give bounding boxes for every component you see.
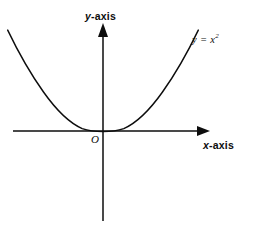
curve-equation-exponent: 2	[215, 32, 219, 40]
y-axis-label: y-axis	[85, 11, 116, 22]
curve-equation-label: y = x2	[192, 33, 219, 45]
curve-equation-lhs: y = x	[192, 34, 215, 45]
parabola-figure: y-axis x-axis y = x2 O	[0, 0, 259, 228]
y-axis-label-suffix: -axis	[91, 10, 116, 22]
graph-canvas	[0, 0, 259, 228]
y-axis-arrowhead	[98, 23, 108, 37]
origin-label: O	[91, 134, 99, 145]
x-axis-label: x-axis	[203, 140, 234, 151]
x-axis-arrowhead	[197, 126, 210, 136]
x-axis-label-suffix: -axis	[209, 139, 234, 151]
